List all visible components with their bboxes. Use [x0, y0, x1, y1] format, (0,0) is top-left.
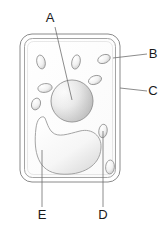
label-d: D: [98, 207, 107, 222]
leader-line-c: [120, 88, 147, 91]
label-c: C: [148, 83, 157, 98]
figure-canvas: A B C D E: [0, 0, 167, 225]
nucleus-shading: [51, 80, 93, 122]
plant-cell-diagram: A B C D E: [0, 0, 167, 225]
label-e: E: [38, 207, 47, 222]
label-a: A: [46, 10, 55, 25]
label-b: B: [149, 46, 158, 61]
